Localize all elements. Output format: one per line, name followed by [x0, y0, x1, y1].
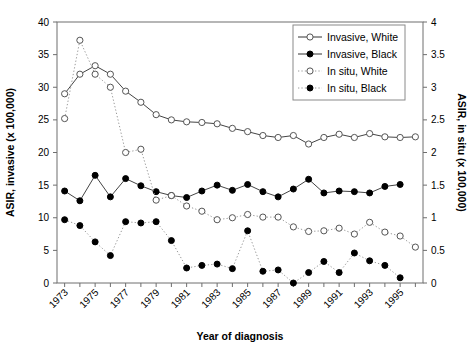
data-point [367, 258, 373, 264]
x-axis-tick-label: 1975 [77, 286, 101, 310]
x-axis-tick-label: 1979 [138, 286, 162, 310]
legend-marker-3 [307, 85, 313, 91]
y2-axis-tick-label: 4 [431, 17, 437, 28]
data-point [260, 214, 266, 220]
x-axis-tick-label: 1989 [291, 286, 315, 310]
data-point [321, 134, 327, 140]
x-axis-tick-label: 1995 [382, 286, 406, 310]
data-point [336, 225, 342, 231]
data-point [123, 88, 129, 94]
legend-marker-1 [307, 51, 313, 57]
data-point [321, 258, 327, 264]
data-point [245, 129, 251, 135]
asir-line-chart: 051015202530354000.511.522.533.541973197… [0, 0, 468, 352]
y2-axis-tick-label: 2 [431, 147, 437, 158]
data-point [336, 188, 342, 194]
data-point [229, 187, 235, 193]
data-point [336, 131, 342, 137]
x-axis-title: Year of diagnosis [197, 330, 284, 342]
data-point [77, 223, 83, 229]
data-point [138, 99, 144, 105]
data-point [62, 91, 68, 97]
data-point [107, 253, 113, 259]
x-axis-tick-label: 1981 [169, 286, 193, 310]
data-point [62, 115, 68, 121]
data-point [62, 188, 68, 194]
data-point [382, 134, 388, 140]
data-point [397, 233, 403, 239]
data-point [351, 231, 357, 237]
data-point [168, 117, 174, 123]
data-point [351, 189, 357, 195]
data-point [245, 181, 251, 187]
data-point [184, 195, 190, 201]
y2-axis-tick-label: 3 [431, 82, 437, 93]
y2-axis-tick-label: 2.5 [431, 114, 445, 125]
data-point [199, 119, 205, 125]
data-point [168, 192, 174, 198]
legend-label-3: In situ, Black [327, 82, 387, 94]
data-point [229, 215, 235, 221]
data-point [107, 71, 113, 77]
y2-axis-tick-label: 0.5 [431, 245, 445, 256]
data-point [77, 198, 83, 204]
x-axis-tick-label: 1983 [199, 286, 223, 310]
data-point [184, 119, 190, 125]
data-point [138, 220, 144, 226]
data-point [229, 266, 235, 272]
data-point [275, 267, 281, 273]
data-point [214, 182, 220, 188]
y2-axis-tick-label: 0 [431, 278, 437, 289]
data-point [107, 84, 113, 90]
data-point [290, 132, 296, 138]
data-point [153, 219, 159, 225]
data-point [214, 261, 220, 267]
data-point [382, 183, 388, 189]
legend-marker-2 [307, 68, 313, 74]
x-axis-tick-label: 1987 [260, 286, 284, 310]
data-point [412, 134, 418, 140]
data-point [92, 239, 98, 245]
data-point [123, 149, 129, 155]
data-point [138, 183, 144, 189]
data-point [321, 190, 327, 196]
data-point [153, 197, 159, 203]
data-point [77, 71, 83, 77]
y-axis-tick-label: 10 [38, 212, 50, 223]
data-point [123, 219, 129, 225]
data-point [321, 228, 327, 234]
data-point [199, 208, 205, 214]
data-point [290, 186, 296, 192]
data-point [77, 37, 83, 43]
y-axis-tick-label: 20 [38, 147, 50, 158]
data-point [153, 112, 159, 118]
y2-axis-tick-label: 1.5 [431, 180, 445, 191]
data-point [92, 71, 98, 77]
x-axis-tick-label: 1973 [47, 286, 71, 310]
data-point [184, 265, 190, 271]
x-axis-tick-label: 1977 [108, 286, 132, 310]
data-point [168, 238, 174, 244]
y-axis-tick-label: 30 [38, 82, 50, 93]
y-axis-title: ASIR, invasive (x 100,000) [4, 88, 16, 217]
x-axis-tick-label: 1985 [230, 286, 254, 310]
data-point [397, 275, 403, 281]
data-point [382, 262, 388, 268]
legend-label-1: Invasive, Black [327, 48, 398, 60]
x-axis-tick-label: 1993 [352, 286, 376, 310]
data-point [229, 125, 235, 131]
data-point [275, 214, 281, 220]
data-point [275, 194, 281, 200]
y-axis-tick-label: 35 [38, 49, 50, 60]
data-point [245, 228, 251, 234]
y-axis-tick-label: 0 [43, 278, 49, 289]
data-point [123, 176, 129, 182]
data-point [306, 228, 312, 234]
data-point [336, 270, 342, 276]
chart-figure: 051015202530354000.511.522.533.541973197… [0, 0, 468, 352]
data-point [367, 190, 373, 196]
series-line-3 [65, 220, 401, 283]
data-point [306, 270, 312, 276]
data-point [199, 262, 205, 268]
data-point [62, 217, 68, 223]
